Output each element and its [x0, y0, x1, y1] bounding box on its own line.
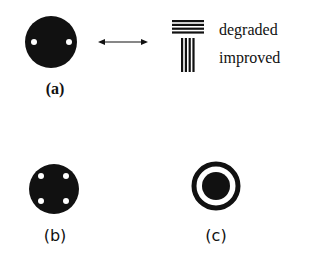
- panel-a-hole-left: [31, 39, 37, 45]
- panel-c-label: (c): [196, 227, 236, 245]
- legend-label-degraded: degraded: [219, 21, 278, 39]
- panel-a-disc: [25, 16, 77, 68]
- panel-b-hole-top-right: [63, 173, 69, 179]
- horizontal-lines-icon: [172, 20, 204, 34]
- vertical-lines-icon: [181, 38, 196, 72]
- panel-b-hole-top-left: [38, 173, 44, 179]
- panel-b-hole-bottom-right: [63, 198, 69, 204]
- panel-b-label: (b): [35, 227, 75, 245]
- double-headed-arrow-icon: [98, 37, 148, 47]
- legend-label-improved: improved: [219, 49, 280, 67]
- panel-a-hole-right: [66, 39, 72, 45]
- ring-target-icon: [191, 161, 241, 211]
- panel-b-hole-bottom-left: [38, 198, 44, 204]
- panel-b-disc: [29, 164, 79, 214]
- panel-a-label: (a): [35, 80, 75, 98]
